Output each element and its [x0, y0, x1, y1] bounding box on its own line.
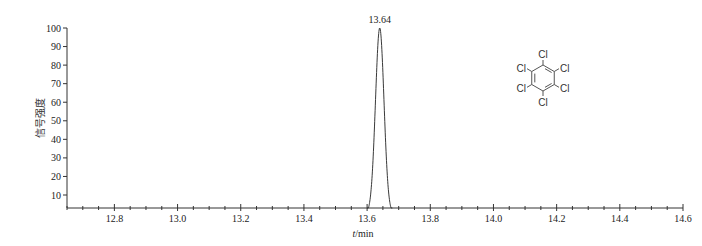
x-tick-label: 14.4	[611, 213, 629, 224]
x-tick-label: 13.4	[295, 213, 313, 224]
y-tick-label: 10	[51, 190, 61, 201]
x-tick-label: 13.6	[358, 213, 376, 224]
x-tick-label: 14.2	[548, 213, 566, 224]
y-tick-label: 30	[51, 152, 61, 163]
y-tick-label: 60	[51, 97, 61, 108]
y-tick-label: 40	[51, 134, 61, 145]
chromatogram-chart: 102030405060708090100 12.813.013.213.413…	[0, 0, 702, 246]
y-axis-label: 信号强度	[34, 98, 46, 138]
y-tick-label: 20	[51, 171, 61, 182]
y-tick-label: 70	[51, 78, 61, 89]
hexachlorobenzene-structure-icon: Cl Cl Cl Cl Cl Cl	[517, 49, 570, 108]
x-tick-label: 13.8	[422, 213, 440, 224]
x-tick-label: 14.6	[674, 213, 692, 224]
x-tick-label: 13.0	[169, 213, 187, 224]
cl-label-bottom: Cl	[538, 97, 547, 108]
cl-label-lower-right: Cl	[560, 83, 569, 94]
y-axis: 102030405060708090100	[46, 23, 67, 209]
cl-label-top: Cl	[538, 49, 547, 60]
y-tick-label: 100	[46, 23, 61, 34]
peak-label: 13.64	[368, 14, 391, 25]
x-tick-label: 14.0	[485, 213, 503, 224]
y-tick-label: 90	[51, 41, 61, 52]
cl-label-upper-right: Cl	[560, 63, 569, 74]
y-tick-label: 80	[51, 60, 61, 71]
x-tick-label: 12.8	[106, 213, 124, 224]
y-tick-label: 50	[51, 115, 61, 126]
cl-label-upper-left: Cl	[517, 63, 526, 74]
x-axis: 12.813.013.213.413.613.814.014.214.414.6	[67, 204, 692, 224]
x-axis-label: t/min	[352, 228, 373, 239]
x-tick-label: 13.2	[232, 213, 250, 224]
peak-curve	[367, 28, 392, 208]
x-axis-label-unit: /min	[355, 228, 373, 239]
cl-label-lower-left: Cl	[517, 83, 526, 94]
